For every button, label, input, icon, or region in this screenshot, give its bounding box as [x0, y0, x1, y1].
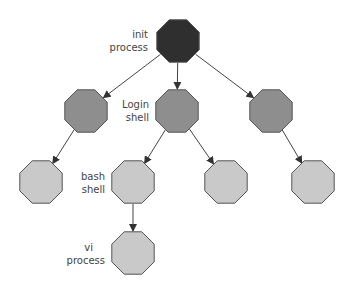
node-vi-octagon — [112, 232, 154, 274]
node-l2c-octagon — [250, 90, 292, 132]
label-line: shell — [89, 111, 149, 124]
label-bash-shell: bash shell — [45, 170, 105, 196]
edge-login-l3c — [189, 129, 213, 164]
edges — [53, 54, 302, 231]
node-l3c-octagon — [205, 161, 247, 203]
node-login-octagon — [156, 90, 198, 132]
edge-init-l2c — [196, 54, 254, 98]
edge-init-l2a — [104, 54, 161, 97]
node-init-octagon — [157, 20, 199, 62]
edge-l2a-l3a — [53, 130, 74, 164]
label-line: bash — [45, 170, 105, 183]
nodes — [20, 20, 334, 274]
label-line: init — [88, 28, 148, 41]
label-init-process: init process — [88, 28, 148, 54]
label-line: process — [45, 254, 105, 267]
edge-l2c-l3d — [282, 130, 302, 163]
label-vi-process: vi process — [45, 241, 105, 267]
node-bash-octagon — [112, 161, 154, 203]
node-l3d-octagon — [292, 161, 334, 203]
label-line: Login — [89, 98, 149, 111]
label-line: process — [88, 41, 148, 54]
label-line: shell — [45, 183, 105, 196]
label-line: vi — [45, 241, 105, 254]
label-login-shell: Login shell — [89, 98, 149, 124]
edge-login-bash — [145, 130, 166, 164]
